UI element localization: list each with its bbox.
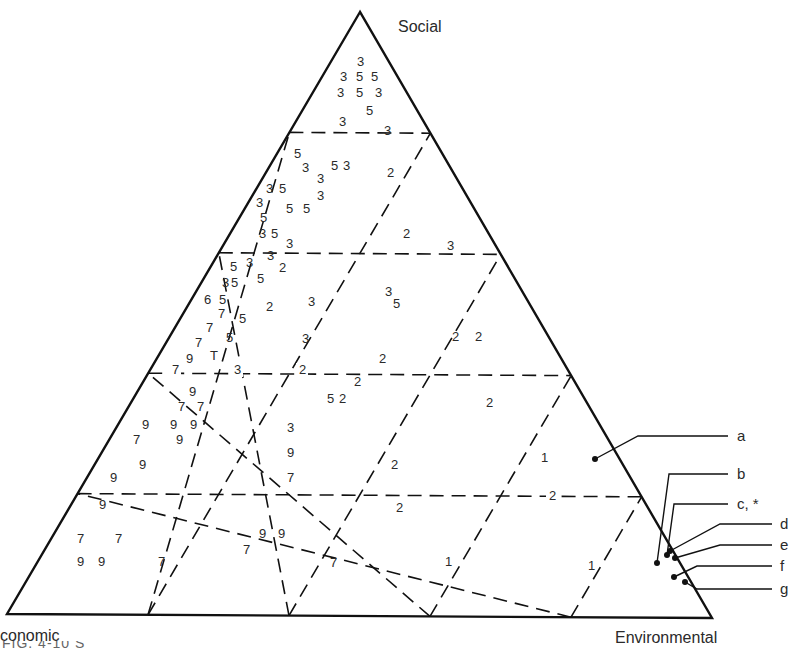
data-point-label: 3 [266, 181, 273, 196]
data-point-label: 7 [133, 432, 140, 447]
data-point-label: 5 [393, 296, 400, 311]
data-point-label: 3 [256, 195, 263, 210]
data-point-label: 5 [371, 69, 378, 84]
leader-line [675, 545, 772, 558]
data-point-label: 3 [308, 294, 315, 309]
data-point-label: T [210, 348, 218, 363]
data-point-label: 9 [287, 445, 294, 460]
leader-line [670, 524, 772, 551]
data-point-label: 2 [354, 374, 361, 389]
grid-line-labels: 3337322 [169, 114, 558, 503]
data-point-label: 9 [142, 417, 149, 432]
grid-label: 2 [299, 362, 306, 377]
data-point-label: 2 [486, 395, 493, 410]
data-point-label: 5 [294, 146, 301, 161]
data-point-label: 2 [266, 299, 273, 314]
data-point-label: 9 [139, 457, 146, 472]
data-point-label: 5 [257, 271, 264, 286]
data-point-label: 5 [366, 103, 373, 118]
data-point-label: 2 [396, 500, 403, 515]
data-points: 3355353535353323533555352353235565233755… [77, 54, 595, 573]
data-point-label: 5 [219, 292, 226, 307]
data-point-label: 3 [246, 255, 253, 270]
data-point-label: 2 [452, 329, 459, 344]
data-point-label: 7 [178, 399, 185, 414]
grid-label: 3 [286, 236, 293, 251]
data-point-label: 5 [271, 226, 278, 241]
legend-label: f [780, 557, 785, 574]
data-point-label: 7 [158, 554, 165, 569]
grid-line-horizontal [219, 253, 501, 255]
data-point-label: 7 [77, 531, 84, 546]
data-point-label: 9 [189, 384, 196, 399]
point-marker-icon [671, 574, 677, 580]
grid-label: 2 [549, 488, 556, 503]
legend-item-d: d [667, 515, 788, 554]
data-point-label: 3 [259, 226, 266, 241]
data-point-label: 3 [357, 54, 364, 69]
legend-label: e [780, 536, 788, 553]
legend-item-c: c, * [664, 495, 759, 558]
data-point-label: 9 [98, 554, 105, 569]
legend-label: g [780, 580, 788, 597]
legend-label: c, * [737, 495, 759, 512]
data-point-label: 5 [327, 391, 334, 406]
data-point-label: 1 [445, 554, 452, 569]
data-point-label: 3 [222, 275, 229, 290]
data-point-label: 5 [356, 69, 363, 84]
vertex-label-social: Social [398, 18, 442, 35]
data-point-label: 2 [339, 391, 346, 406]
data-point-label: 9 [176, 432, 183, 447]
legend-item-a: a [592, 427, 746, 462]
data-point-label: 7 [195, 335, 202, 350]
data-point-label: 3 [267, 248, 274, 263]
data-point-label: 3 [385, 284, 392, 299]
grid-line-right-parallel [219, 253, 289, 616]
data-point-label: 9 [190, 417, 197, 432]
data-point-label: 9 [259, 526, 266, 541]
data-point-label: 9 [278, 526, 285, 541]
grid-label: 3 [339, 114, 346, 129]
data-point-label: 3 [340, 69, 347, 84]
leader-line [685, 582, 772, 589]
data-point-label: 2 [391, 457, 398, 472]
legend-label: b [737, 465, 745, 482]
grid-label: 7 [172, 362, 179, 377]
data-point-label: 2 [475, 329, 482, 344]
data-point-label: 6 [204, 292, 211, 307]
data-point-label: 5 [279, 181, 286, 196]
data-point-label: 2 [379, 351, 386, 366]
data-point-label: 9 [99, 497, 106, 512]
leader-line [595, 436, 728, 459]
data-point-label: 7 [330, 555, 337, 570]
data-point-label: 3 [302, 331, 309, 346]
data-point-label: 7 [206, 320, 213, 335]
data-point-label: 5 [226, 330, 233, 345]
data-point-label: 5 [331, 158, 338, 173]
data-point-label: 5 [230, 259, 237, 274]
legend: abc, *defg [592, 427, 788, 597]
data-point-label: 2 [279, 260, 286, 275]
point-marker-icon [682, 579, 688, 585]
data-point-label: 5 [286, 201, 293, 216]
data-point-label: 9 [110, 470, 117, 485]
legend-label: a [737, 427, 746, 444]
data-point-label: 9 [170, 417, 177, 432]
grid-label: 3 [447, 238, 454, 253]
data-point-label: 1 [541, 450, 548, 465]
point-marker-icon [672, 555, 678, 561]
grid-line-right-parallel [78, 494, 571, 618]
data-point-label: 7 [287, 470, 294, 485]
grid-line-horizontal [289, 132, 430, 133]
data-point-label: 7 [115, 531, 122, 546]
data-point-label: 2 [403, 226, 410, 241]
data-point-label: 5 [303, 201, 310, 216]
data-point-label: 3 [384, 123, 391, 138]
data-point-label: 3 [287, 420, 294, 435]
grid-label: 3 [234, 362, 241, 377]
data-point-label: 3 [302, 160, 309, 175]
leader-line [674, 566, 772, 577]
grid-line-left-parallel [571, 497, 642, 617]
triangle-outline [7, 12, 712, 618]
data-point-label: 2 [387, 165, 394, 180]
